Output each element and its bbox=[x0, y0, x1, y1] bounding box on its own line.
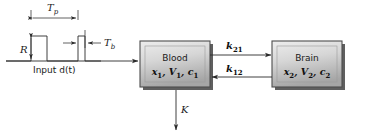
input-pulse-train: R Tp Tb Input d(t) bbox=[6, 2, 138, 75]
period-dimension-Tp: Tp bbox=[31, 2, 78, 20]
block-blood-title: Blood bbox=[162, 53, 187, 63]
pulse-width-dimension-Tb: Tb bbox=[63, 30, 116, 51]
flow-k12: k12 bbox=[212, 63, 272, 77]
flow-K-label: K bbox=[180, 104, 189, 115]
compartment-model-diagram: R Tp Tb Input d(t) bbox=[0, 0, 380, 138]
diagram-canvas: R Tp Tb Input d(t) bbox=[0, 0, 380, 138]
block-brain-title: Brain bbox=[295, 53, 319, 63]
amplitude-label: R bbox=[19, 44, 28, 55]
flow-k12-label: k12 bbox=[226, 63, 243, 77]
flow-K-elimination: K bbox=[176, 90, 189, 130]
block-brain[interactable]: Brain x2, V2, c2 bbox=[272, 41, 345, 90]
block-blood[interactable]: Blood x1, V1, c1 bbox=[140, 41, 213, 90]
input-caption: Input d(t) bbox=[33, 65, 75, 75]
amplitude-dimension-R: R bbox=[19, 38, 31, 59]
pulse-width-label: Tb bbox=[104, 37, 116, 51]
period-label: Tp bbox=[47, 2, 59, 16]
flow-k21: k21 bbox=[210, 40, 271, 55]
flow-k21-label: k21 bbox=[226, 40, 243, 54]
